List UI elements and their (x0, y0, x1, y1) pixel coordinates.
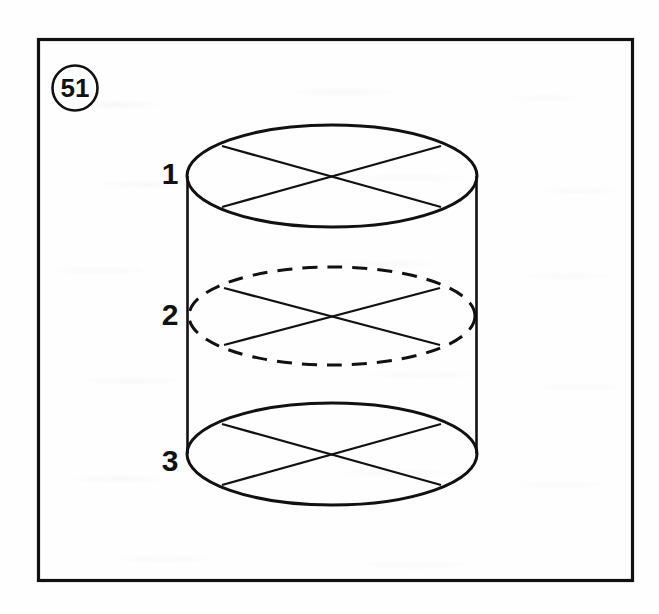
cross-section-2 (189, 267, 475, 365)
figure-number-badge: 51 (53, 66, 98, 111)
cross-section-label-1: 1 (162, 157, 179, 190)
cylinder-body (188, 176, 477, 454)
cross-section-label-2: 2 (162, 298, 179, 331)
figure-number-label: 51 (61, 73, 90, 103)
cross-section-labels: 1 2 3 (162, 157, 179, 477)
figure-canvas: 51 1 2 3 (0, 0, 659, 614)
figure-frame-border (39, 40, 633, 581)
cross-section-1 (187, 125, 477, 227)
figure-page: 51 1 2 3 (0, 0, 659, 614)
cross-section-3 (187, 403, 477, 505)
cross-section-label-3: 3 (162, 444, 179, 477)
